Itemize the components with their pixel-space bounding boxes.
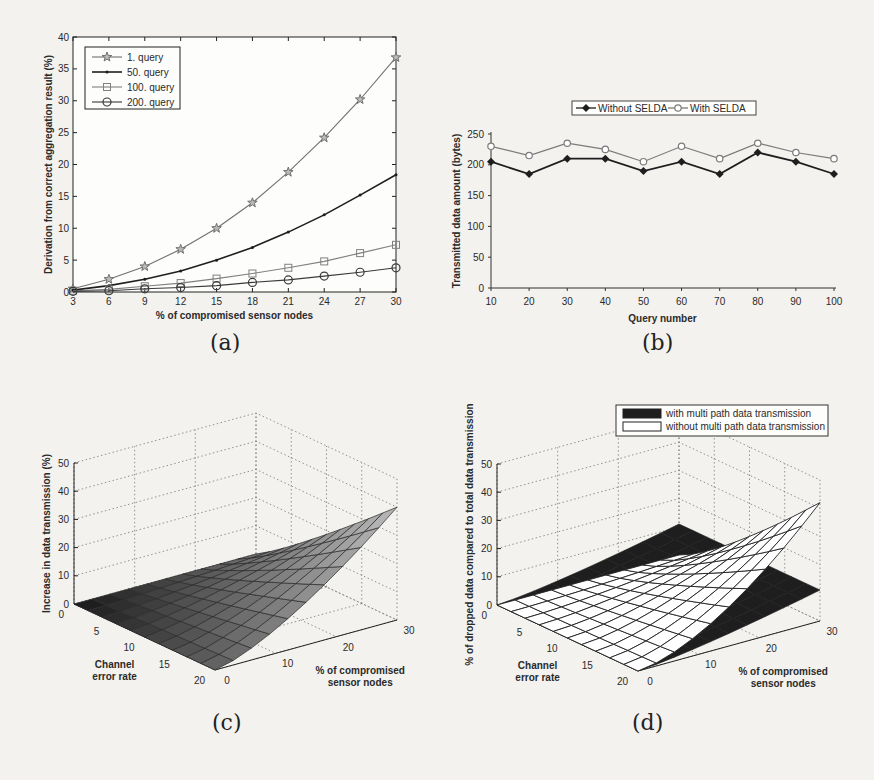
error-tick-label: 10: [546, 643, 558, 654]
x-tick-label: 18: [247, 296, 259, 307]
error-tick-label: 0: [58, 609, 64, 620]
z-tick-label: 10: [481, 571, 493, 582]
x-tick-label: 6: [106, 296, 112, 307]
error-tick-label: 5: [94, 626, 100, 637]
nodes-axis-label: % of compromised: [738, 666, 827, 677]
nodes-tick-label: 30: [826, 626, 838, 637]
legend-label: 200. query: [127, 97, 174, 108]
y-tick-label: 35: [58, 63, 70, 74]
legend-label: 1. query: [127, 52, 163, 63]
z-tick-label: 20: [481, 543, 493, 554]
nodes-axis-label-2: sensor nodes: [328, 677, 393, 688]
x-tick-label: 24: [319, 296, 331, 307]
y-tick-label: 40: [58, 32, 70, 43]
nodes-tick-label: 30: [403, 625, 415, 636]
y-tick-label: 100: [467, 221, 484, 232]
nodes-axis-label: % of compromised: [315, 665, 404, 676]
error-tick-label: 15: [159, 659, 171, 670]
chart-b: 050100150200250102030405060708090100Quer…: [440, 0, 874, 360]
dot-marker-icon: [323, 213, 326, 216]
legend: Without SELDAWith SELDA: [572, 101, 756, 115]
filled-diamond-marker-icon: [754, 148, 762, 156]
y-tick-label: 15: [58, 191, 70, 202]
filled-diamond-marker-icon: [639, 167, 647, 175]
open-circle-marker-icon: [678, 143, 684, 149]
dot-marker-icon: [251, 246, 254, 249]
z-tick-label: 0: [63, 599, 69, 610]
filled-diamond-marker-icon: [716, 170, 724, 178]
caption-a: (a): [210, 330, 240, 355]
y-tick-label: 200: [467, 159, 484, 170]
x-tick-label: 20: [524, 296, 536, 307]
z-tick-label: 10: [58, 570, 70, 581]
open-circle-marker-icon: [602, 146, 608, 152]
legend-open-circle-icon: [675, 105, 681, 111]
x-tick-label: 30: [562, 296, 574, 307]
nodes-tick-label: 0: [224, 675, 230, 686]
series-without-selda: [487, 148, 838, 178]
z-tick-label: 0: [486, 600, 492, 611]
error-axis-label: Channel: [95, 659, 135, 670]
legend-label: With SELDA: [690, 103, 746, 114]
filled-diamond-marker-icon: [678, 158, 686, 166]
z-tick-label: 50: [58, 458, 70, 469]
x-axis-label: Query number: [628, 313, 696, 324]
z-tick-label: 30: [58, 514, 70, 525]
z-tick-label: 40: [58, 486, 70, 497]
legend: 1. query50. query100. query200. query: [85, 47, 180, 109]
x-tick-label: 70: [714, 296, 726, 307]
error-tick-label: 10: [123, 642, 135, 653]
z-tick-label: 50: [481, 459, 493, 470]
legend-label: with multi path data transmission: [665, 408, 811, 419]
open-circle-marker-icon: [640, 159, 646, 165]
chart-a: 051015202530354036912151821242730% of co…: [0, 0, 440, 360]
filled-diamond-marker-icon: [792, 158, 800, 166]
legend-label: without multi path data transmission: [665, 421, 825, 432]
z-tick-label: 20: [58, 542, 70, 553]
x-tick-label: 30: [390, 296, 402, 307]
filled-diamond-marker-icon: [525, 170, 533, 178]
chart-a-plot: 051015202530354036912151821242730% of co…: [0, 0, 440, 340]
x-tick-label: 90: [790, 296, 802, 307]
open-circle-marker-icon: [716, 155, 722, 161]
x-tick-label: 21: [283, 296, 295, 307]
x-tick-label: 9: [142, 296, 148, 307]
x-tick-label: 27: [355, 296, 367, 307]
filled-diamond-marker-icon: [830, 170, 838, 178]
chart-d: 01020304050051015200102030% of dropped d…: [440, 380, 874, 710]
x-tick-label: 40: [600, 296, 612, 307]
dot-marker-icon: [359, 194, 362, 197]
x-tick-label: 50: [638, 296, 650, 307]
z-axis-label: % of dropped data compared to total data…: [464, 403, 475, 665]
y-tick-label: 0: [478, 283, 484, 294]
z-tick-label: 40: [481, 487, 493, 498]
y-tick-label: 250: [467, 129, 484, 140]
x-tick-label: 60: [676, 296, 688, 307]
filled-diamond-marker-icon: [563, 155, 571, 163]
x-axis-label: % of compromised sensor nodes: [156, 310, 314, 321]
y-tick-label: 150: [467, 190, 484, 201]
legend-label: 50. query: [127, 67, 169, 78]
chart-d-plot: 01020304050051015200102030% of dropped d…: [440, 380, 874, 710]
y-axis-label: Transmitted data amount (bytes): [451, 134, 462, 288]
x-tick-label: 3: [70, 296, 76, 307]
dot-marker-icon: [179, 269, 182, 272]
error-tick-label: 20: [194, 675, 206, 686]
error-tick-label: 15: [582, 660, 594, 671]
legend-swatch-icon: [623, 422, 661, 431]
open-circle-marker-icon: [526, 152, 532, 158]
open-circle-marker-icon: [793, 149, 799, 155]
open-circle-marker-icon: [831, 155, 837, 161]
filled-diamond-marker-icon: [601, 155, 609, 163]
y-tick-label: 25: [58, 127, 70, 138]
z-tick-label: 30: [481, 515, 493, 526]
caption-b: (b): [642, 330, 673, 355]
chart-c: 01020304050051015200102030Increase in da…: [0, 380, 440, 710]
y-tick-label: 5: [63, 255, 69, 266]
dot-marker-icon: [215, 259, 218, 262]
error-axis-label-2: error rate: [92, 671, 137, 682]
chart-b-plot: 050100150200250102030405060708090100Quer…: [440, 0, 874, 340]
y-tick-label: 30: [58, 95, 70, 106]
x-tick-label: 80: [752, 296, 764, 307]
x-tick-label: 15: [211, 296, 223, 307]
